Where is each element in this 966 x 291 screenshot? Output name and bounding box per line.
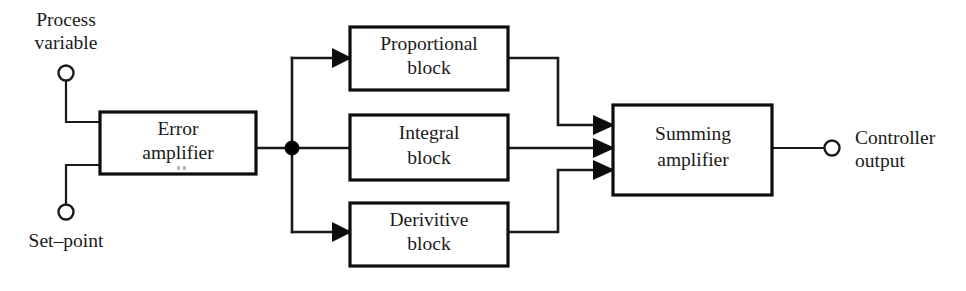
proportional-block-label-line1: Proportional bbox=[380, 33, 478, 54]
derivitive-block-label-line2: block bbox=[407, 233, 451, 254]
block-integral: Integral block bbox=[350, 115, 508, 180]
process-variable-label-line1: Process bbox=[36, 9, 96, 30]
terminal-process-variable: Process variable bbox=[35, 9, 98, 80]
controller-output-terminal-icon bbox=[825, 141, 840, 156]
process-variable-terminal-icon bbox=[59, 66, 74, 81]
controller-output-label-line2: output bbox=[855, 150, 905, 171]
proportional-block-label-line2: block bbox=[407, 57, 451, 78]
set-point-label: Set–point bbox=[29, 230, 104, 251]
derivitive-block-label-line1: Derivitive bbox=[389, 209, 468, 230]
summing-amplifier-label-line1: Summing bbox=[655, 123, 731, 144]
integral-block-label-line2: block bbox=[407, 147, 451, 168]
integral-block-label-line1: Integral bbox=[399, 122, 460, 143]
block-error-amplifier: Error amplifier bbox=[100, 112, 256, 174]
block-summing-amplifier: Summing amplifier bbox=[613, 105, 772, 195]
wire-process-variable bbox=[66, 81, 101, 122]
block-proportional: Proportional block bbox=[350, 27, 508, 90]
error-amplifier-label-line1: Error bbox=[157, 118, 199, 139]
summing-amplifier-label-line2: amplifier bbox=[657, 149, 729, 170]
wire-proportional-to-summing bbox=[508, 58, 604, 125]
process-variable-label-line2: variable bbox=[35, 32, 98, 53]
terminal-set-point: Set–point bbox=[29, 205, 104, 252]
error-amplifier-label-line2: amplifier bbox=[142, 142, 214, 163]
wire-derivitive-to-summing bbox=[508, 170, 604, 232]
wire-set-point bbox=[66, 165, 101, 204]
scan-artifact-mark-a bbox=[177, 166, 180, 170]
set-point-terminal-icon bbox=[59, 205, 74, 220]
pid-block-diagram: Error amplifier Proportional block Integ… bbox=[0, 0, 966, 291]
terminal-controller-output: Controller output bbox=[825, 127, 936, 171]
controller-output-label-line1: Controller bbox=[855, 127, 936, 148]
diagram-canvas: Error amplifier Proportional block Integ… bbox=[0, 0, 966, 291]
block-derivitive: Derivitive block bbox=[350, 203, 508, 266]
scan-artifact-mark-b bbox=[183, 166, 186, 170]
signal-split-junction-dot bbox=[285, 141, 299, 155]
